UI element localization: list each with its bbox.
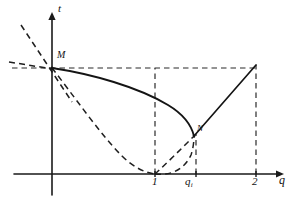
y-axis-arrow-icon <box>48 12 55 20</box>
point-marker-N <box>193 135 196 138</box>
x-tick-label-qi-base: q <box>185 175 191 187</box>
dashed-chord-1-to-N <box>155 137 193 174</box>
plot-canvas <box>0 0 295 205</box>
point-label-n: N <box>197 124 203 133</box>
dashed-branch-M-to-1 <box>52 68 155 174</box>
x-tick-label-2: 2 <box>252 176 258 187</box>
solid-curve-M-to-N <box>52 68 194 136</box>
x-tick-label-1: 1 <box>152 176 158 187</box>
steep-tangent-dashed-line <box>21 25 72 102</box>
point-label-m: M <box>57 50 65 60</box>
x-axis-label: q <box>279 174 285 186</box>
x-tick-label-qi-subscript: i <box>191 181 193 189</box>
x-tick-label-qi: qi <box>185 176 193 189</box>
point-marker-M <box>51 67 54 70</box>
solid-segment-N-to-2 <box>194 65 256 136</box>
figure-container: t q M N 1 qi 2 <box>0 0 295 205</box>
y-axis-label: t <box>58 3 61 14</box>
